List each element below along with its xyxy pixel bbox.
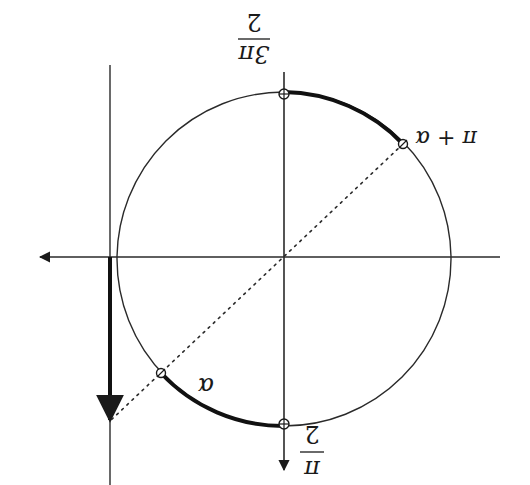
point-alpha [157,369,166,378]
label-denominator: 2 [246,8,261,36]
label-pi-plus-alpha: π + α [415,126,478,151]
label-three-pi-over-two: 3π 2 [237,8,270,68]
label-text: α [198,372,214,400]
label-denominator: 2 [304,420,319,448]
point-pi-plus-alpha [399,140,408,149]
arc-pi-plus-alpha [284,92,403,144]
label-numerator: 3π [237,40,269,68]
label-alpha: α [198,372,214,400]
label-pi-over-two: π 2 [300,420,324,483]
dotted-radius-line [110,144,403,421]
label-numerator: π [303,455,321,483]
point-three-pi-over-two [279,89,289,99]
point-pi-over-two [279,419,289,429]
unit-circle-diagram: 3π 2 π 2 π + α α [0,0,530,485]
label-text: π + α [415,126,478,151]
arc-alpha [161,373,284,426]
